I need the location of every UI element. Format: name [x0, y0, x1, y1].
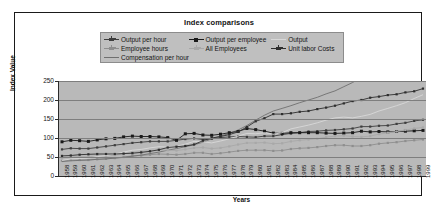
x-axis-tick-label: 1980: [257, 165, 263, 178]
y-axis-tick-label: 250: [32, 78, 54, 84]
x-axis-tick-label: 1981: [266, 165, 272, 178]
x-axis-tick-label: 1982: [275, 165, 281, 178]
x-axis-tick-label: 1991: [354, 165, 360, 178]
x-axis-tick-label: 1977: [231, 165, 237, 178]
legend-item: Employee hours: [104, 44, 189, 53]
x-axis-tick-label: 1974: [204, 165, 210, 178]
legend-label: Output per hour: [121, 35, 167, 44]
plot-area: [58, 81, 426, 177]
gridline: [59, 157, 426, 158]
x-axis-tick-label: 1988: [328, 165, 334, 178]
x-axis-tick-label: 1996: [398, 165, 404, 178]
y-axis-title: Index Value: [9, 55, 16, 91]
x-axis-tick-label: 1964: [116, 165, 122, 178]
x-axis-tick-label: 1971: [178, 165, 184, 178]
x-axis-tick-label: 1986: [310, 165, 316, 178]
x-axis-title: Years: [58, 196, 425, 203]
x-axis-tick-label: 1966: [134, 165, 140, 178]
chart-frame: Index comparisons Output per hourOutput …: [14, 12, 422, 196]
x-axis-tick-label: 1962: [99, 165, 105, 178]
y-axis-tick-label: 50: [32, 154, 54, 160]
legend-item: Output per employee: [189, 35, 272, 44]
series-unit-labor-costs: [61, 88, 424, 158]
x-axis-tick-label: 1995: [389, 165, 395, 178]
x-axis-tick-label: 1984: [292, 165, 298, 178]
x-axis-tick-label: 1992: [363, 165, 369, 178]
y-axis-tick: [55, 157, 58, 158]
y-axis-tick-label: 200: [32, 97, 54, 103]
legend-spacer: [189, 53, 271, 62]
y-axis-tick: [55, 81, 58, 82]
x-axis-tick-label: 1976: [222, 165, 228, 178]
x-axis-tick-label: 1997: [407, 165, 413, 178]
x-axis-tick-label: 1975: [213, 165, 219, 178]
legend-label: Output: [288, 35, 308, 44]
legend-label: Unit labor Costs: [288, 44, 334, 53]
chart-legend: Output per hourOutput per employeeOutput…: [100, 32, 344, 63]
x-axis-tick-label: 1961: [90, 165, 96, 178]
y-axis-tick-label: 0: [32, 173, 54, 179]
gridline: [59, 81, 426, 82]
legend-item: Output: [271, 35, 340, 44]
x-axis-tick-label: 1998: [416, 165, 422, 178]
x-axis-tick-label: 1987: [319, 165, 325, 178]
y-axis-tick: [55, 100, 58, 101]
y-axis-tick-label: 150: [32, 116, 54, 122]
x-axis-tick-label: 1990: [345, 165, 351, 178]
legend-label: Employee hours: [121, 44, 168, 53]
x-axis-tick-label: 1985: [301, 165, 307, 178]
legend-row: Compensation per hour: [104, 53, 340, 62]
legend-row: Employee hoursAll EmployeesUnit labor Co…: [104, 44, 340, 53]
x-axis-tick-label: 1968: [152, 165, 158, 178]
gridline: [59, 100, 426, 101]
legend-item: Output per hour: [104, 35, 189, 44]
x-axis-tick-label: 1994: [380, 165, 386, 178]
legend-row: Output per hourOutput per employeeOutput: [104, 35, 340, 44]
y-axis-tick: [55, 176, 58, 177]
x-axis-tick-label: 1972: [187, 165, 193, 178]
series-compensation-per-hour: [62, 81, 423, 162]
series-lines: [59, 81, 426, 176]
legend-marker-icon: [104, 54, 119, 61]
chart-title: Index comparisons: [15, 18, 423, 27]
x-axis-tick-label: 1969: [160, 165, 166, 178]
x-axis-tick-label: 1989: [336, 165, 342, 178]
legend-item: Unit labor Costs: [271, 44, 340, 53]
x-axis-tick-label: 1970: [169, 165, 175, 178]
x-axis-tick-label: 1965: [125, 165, 131, 178]
x-axis-tick-label: 1959: [72, 165, 78, 178]
legend-marker-icon: [271, 45, 286, 52]
legend-label: All Employees: [206, 44, 247, 53]
x-axis-tick-label: 1963: [108, 165, 114, 178]
legend-marker-icon: [189, 36, 204, 43]
x-axis-tick-label: 1993: [372, 165, 378, 178]
legend-marker-icon: [189, 45, 204, 52]
x-axis-tick-label: 1983: [284, 165, 290, 178]
legend-label: Output per employee: [206, 35, 267, 44]
y-axis-tick: [55, 119, 58, 120]
x-axis-tick-label: 1960: [81, 165, 87, 178]
legend-marker-icon: [104, 45, 119, 52]
y-axis-tick: [55, 138, 58, 139]
legend-item: All Employees: [189, 44, 272, 53]
x-axis-tick-label: 1973: [196, 165, 202, 178]
x-axis-tick-label: 1978: [240, 165, 246, 178]
legend-label: Compensation per hour: [121, 53, 189, 62]
y-axis-tick-label: 100: [32, 135, 54, 141]
x-axis-tick-label: 1979: [248, 165, 254, 178]
legend-item: Compensation per hour: [104, 53, 189, 62]
gridline: [59, 119, 426, 120]
legend-spacer: [271, 53, 340, 62]
legend-marker-icon: [104, 36, 119, 43]
x-axis-tick-label: 1999: [425, 165, 431, 178]
x-axis-tick-label: 1958: [64, 165, 70, 178]
gridline: [59, 138, 426, 139]
chart-screenshot: Index comparisons Output per hourOutput …: [0, 0, 434, 204]
legend-marker-icon: [271, 36, 286, 43]
x-axis-tick-label: 1967: [143, 165, 149, 178]
